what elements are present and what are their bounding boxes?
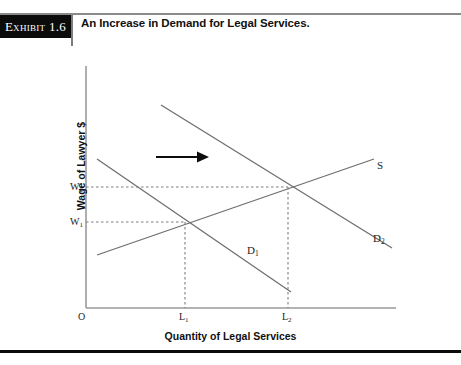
origin-label: O xyxy=(78,311,85,322)
y-tick-w2: W2 xyxy=(70,181,83,194)
y-tick-w1: W1 xyxy=(70,216,83,229)
supply-demand-chart: Wage of Lawyer $ W2 W1 O L1 L2 S D1 D2 Q… xyxy=(0,0,461,365)
demand-curve-2-label: D2 xyxy=(373,232,385,246)
footer-rule xyxy=(0,350,461,353)
demand-curve-1 xyxy=(97,159,291,292)
y-axis-label: Wage of Lawyer $ xyxy=(75,111,87,221)
x-axis-label: Quantity of Legal Services xyxy=(0,330,461,342)
x-tick-l2: L2 xyxy=(282,311,292,324)
demand-shift-arrow xyxy=(156,152,209,163)
x-tick-l1: L1 xyxy=(179,311,189,324)
exhibit-page: Exhibit 1.6 An Increase in Demand for Le… xyxy=(0,0,461,365)
supply-curve xyxy=(97,159,374,255)
supply-curve-label: S xyxy=(377,159,383,171)
demand-curve-1-label: D1 xyxy=(247,244,259,258)
